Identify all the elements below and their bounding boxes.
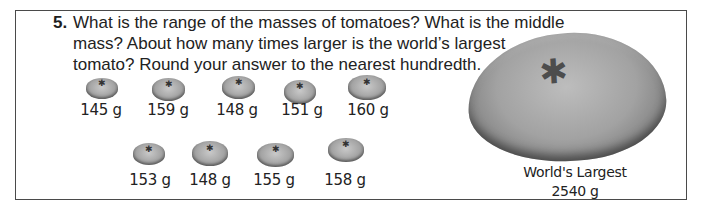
problem-number: 5.: [53, 13, 67, 33]
problem-text-line-3: tomato? Round your answer to the nearest…: [73, 55, 481, 75]
tomato-icon: ✱: [133, 143, 165, 165]
problem-text-line-2: mass? About how many times larger is the…: [73, 34, 505, 54]
tomato-mass-label: 160 g: [347, 101, 388, 119]
tomato-mass-label: 155 g: [253, 171, 294, 189]
tomato-icon: ✱: [328, 138, 364, 162]
tomato-mass-label: 145 g: [80, 101, 121, 119]
problem-text-line-1: What is the range of the masses of tomat…: [73, 13, 564, 33]
tomato-icon: ✱: [222, 76, 255, 99]
tomato-mass-label: 153 g: [129, 171, 170, 189]
tomato-mass-label: 148 g: [189, 171, 230, 189]
largest-tomato-mass: 2540 g: [551, 182, 598, 201]
tomato-mass-label: 158 g: [324, 171, 365, 189]
tomato-icon: ✱: [348, 75, 386, 100]
tomato-mass-label: 159 g: [147, 101, 188, 119]
tomato-mass-label: 148 g: [216, 101, 257, 119]
tomato-icon: ✱: [257, 143, 294, 167]
tomato-mass-label: 151 g: [281, 101, 322, 119]
tomato-icon: ✱: [152, 78, 185, 101]
tomato-icon: ✱: [86, 78, 118, 99]
tomato-icon: ✱: [192, 141, 228, 166]
largest-tomato-title: World's Largest: [523, 163, 626, 182]
